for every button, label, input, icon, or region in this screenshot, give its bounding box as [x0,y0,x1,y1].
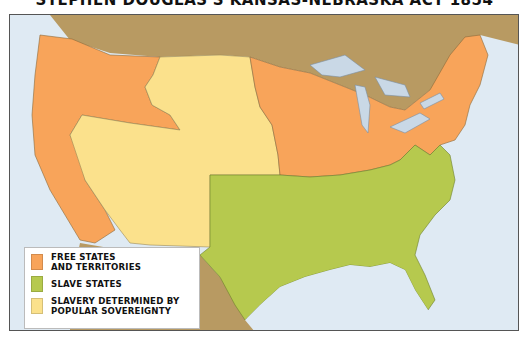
legend-item-popular-sovereignty: SLAVERY DETERMINED BY POPULAR SOVEREIGNT… [31,296,193,316]
map-legend: FREE STATES AND TERRITORIES SLAVE STATES… [24,247,200,329]
legend-free-line1: FREE STATES [51,252,116,262]
free-states-swatch-icon [31,254,43,270]
legend-item-free: FREE STATES AND TERRITORIES [31,252,193,272]
legend-ps-line2: POPULAR SOVEREIGNTY [51,306,171,316]
map-frame: FREE STATES AND TERRITORIES SLAVE STATES… [9,14,519,331]
legend-free-line2: AND TERRITORIES [51,262,141,272]
legend-slave-label: SLAVE STATES [51,279,122,289]
map-title: STEPHEN DOUGLAS'S KANSAS-NEBRASKA ACT 18… [0,0,529,9]
popular-sovereignty-swatch-icon [31,298,43,314]
slave-states-swatch-icon [31,276,43,292]
legend-item-slave: SLAVE STATES [31,276,193,292]
legend-ps-line1: SLAVERY DETERMINED BY [51,296,179,306]
